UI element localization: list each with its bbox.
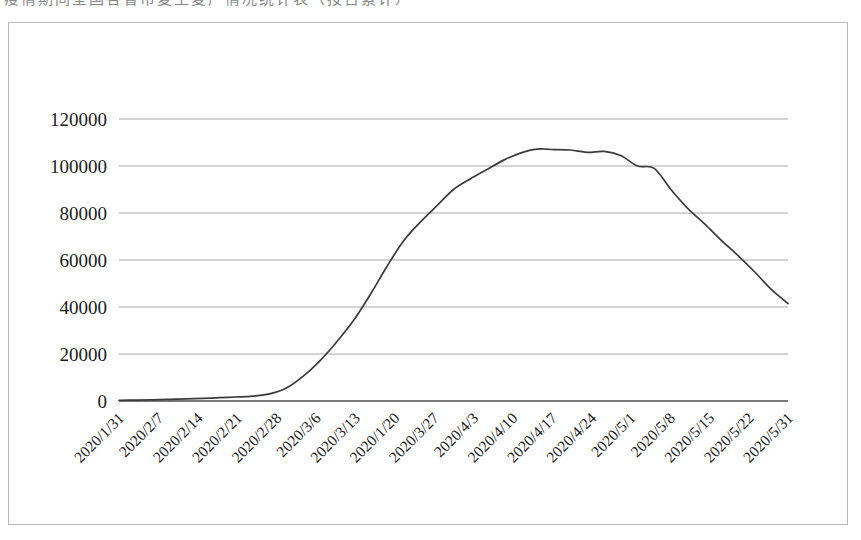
x-axis-labels-group: 2020/1/312020/2/72020/2/142020/2/212020/… [71, 409, 796, 466]
data-series-group [119, 149, 788, 400]
y-axis-tick-label: 20000 [60, 344, 108, 365]
y-axis-tick-label: 100000 [50, 156, 107, 177]
scan-text-fragment: 疫情期间全国各省市复工复产情况统计表（按日累计） [0, 0, 861, 16]
y-axis-tick-label: 120000 [50, 109, 107, 130]
gridlines-group [119, 119, 788, 401]
y-axis-tick-label: 60000 [60, 250, 108, 271]
y-axis-tick-label: 80000 [60, 203, 108, 224]
scan-text-fragment-line: 疫情期间全国各省市复工复产情况统计表（按日累计） [0, 0, 861, 8]
x-axis-tick-label: 2020/1/31 [71, 409, 127, 465]
chart-frame: 020000400006000080000100000120000 2020/1… [8, 22, 848, 525]
y-axis-tick-label: 0 [98, 391, 108, 412]
data-series-line [119, 149, 788, 400]
y-axis-tick-label: 40000 [60, 297, 108, 318]
line-chart: 020000400006000080000100000120000 2020/1… [9, 23, 849, 526]
y-axis-labels-group: 020000400006000080000100000120000 [50, 109, 107, 412]
chart-canvas: 020000400006000080000100000120000 2020/1… [9, 23, 849, 526]
